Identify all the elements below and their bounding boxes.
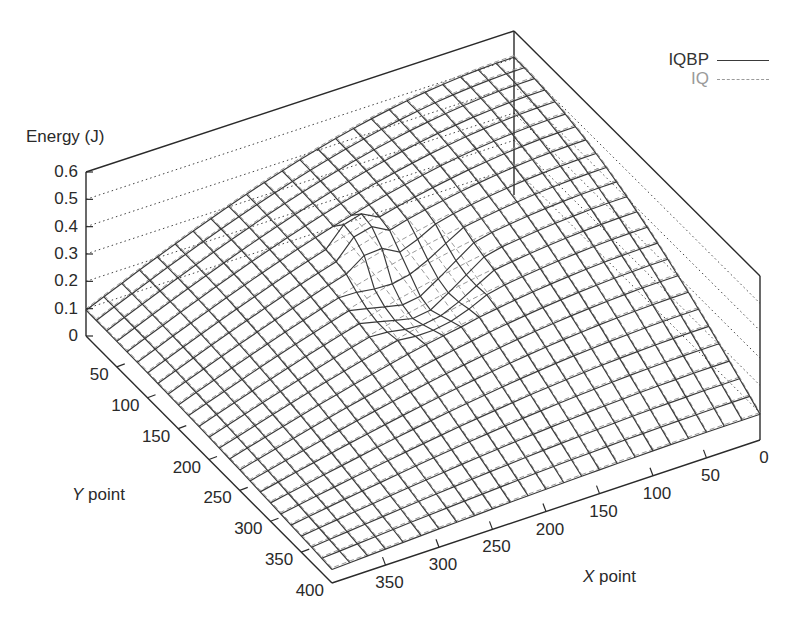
y-axis-label-var: Y [72,485,83,504]
x-tick-label: 0 [742,448,786,468]
y-tick-label: 250 [188,488,232,508]
y-tick-label: 50 [65,365,109,385]
legend-label-iq: IQ [691,69,709,89]
y-tick-label: 200 [157,458,201,478]
x-tick-label: 100 [635,484,679,504]
y-tick-label: 150 [126,427,170,447]
z-tick-label: 0.2 [38,271,78,291]
x-axis-label-var: X [583,567,594,586]
x-tick-label: 300 [421,555,465,575]
z-tick-label: 0.5 [38,189,78,209]
surface-plot [0,0,803,623]
x-axis-label-text: point [594,567,636,586]
z-tick-label: 0.4 [38,217,78,237]
y-tick-label: 300 [219,519,263,539]
legend-swatch-dashed [717,79,769,80]
z-tick-label: 0.1 [38,299,78,319]
x-tick-label: 250 [475,537,519,557]
x-tick-label: 150 [582,502,626,522]
x-tick-label: 200 [528,520,572,540]
y-tick-label: 350 [249,550,293,570]
y-tick-label: 100 [96,396,140,416]
legend-label-iqbp: IQBP [668,50,709,70]
x-tick-label: 50 [689,466,733,486]
y-axis-label: Y point [72,485,125,505]
legend-item-iqbp: IQBP [668,50,769,70]
y-tick-label: 400 [280,581,324,601]
z-tick-label: 0 [38,326,78,346]
z-axis-label: Energy (J) [26,127,104,147]
legend-item-iq: IQ [691,69,769,89]
legend-swatch-solid [717,60,769,61]
z-tick-label: 0.6 [38,162,78,182]
z-tick-label: 0.3 [38,244,78,264]
x-tick-label: 350 [368,573,412,593]
y-axis-label-text: point [83,485,125,504]
x-axis-label: X point [583,567,636,587]
